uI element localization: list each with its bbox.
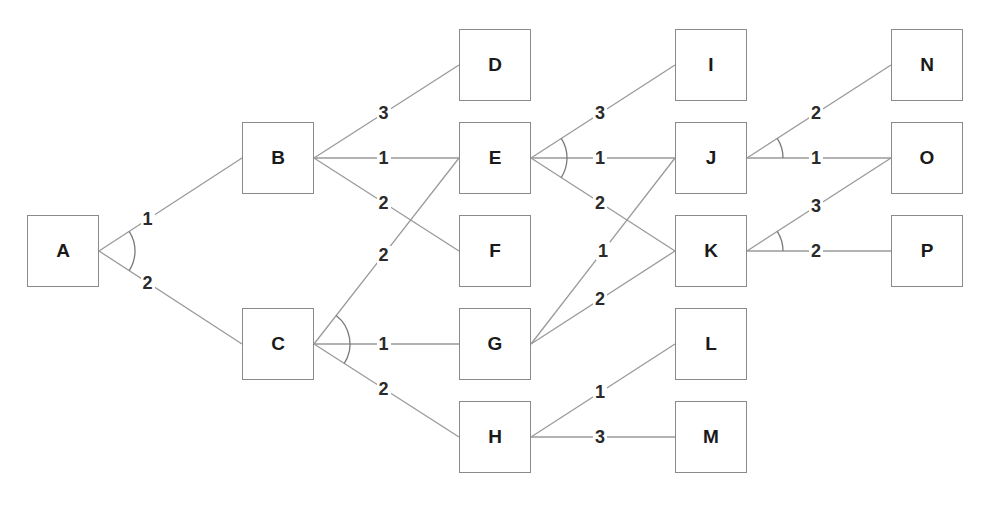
edge-cost-label: 2 [593,290,607,308]
node-i: I [675,29,747,101]
node-d: D [459,29,531,101]
node-l: L [675,308,747,380]
node-a: A [27,215,99,287]
and-arc-j [777,138,783,158]
node-f: F [459,215,531,287]
edge-cost-label: 1 [377,149,391,167]
edge-cost-label: 2 [141,274,155,292]
edge-cost-label: 3 [377,104,391,122]
edge-cost-label: 1 [593,149,607,167]
node-n: N [891,29,963,101]
node-m: M [675,401,747,473]
edge-cost-label: 1 [593,383,607,401]
and-arc-a [129,231,135,270]
node-g: G [459,308,531,380]
node-h: H [459,401,531,473]
and-or-graph: 1231221231212132132 ABCDEFGHIJKLMNOP [0,0,988,507]
edge-cost-label: 1 [596,242,610,260]
and-arc-k [777,231,783,251]
edge-cost-label: 1 [141,210,155,228]
and-arc-c [336,316,350,364]
node-b: B [242,122,314,194]
node-p: P [891,215,963,287]
node-c: C [242,308,314,380]
edge-cost-label: 2 [377,380,391,398]
node-o: O [891,122,963,194]
edge-cost-label: 1 [809,149,823,167]
edge-cost-label: 3 [593,104,607,122]
edge-cost-label: 2 [377,246,391,264]
node-e: E [459,122,531,194]
edge-cost-label: 2 [377,194,391,212]
edge-cost-label: 2 [593,194,607,212]
node-k: K [675,215,747,287]
edge-cost-label: 3 [593,428,607,446]
edge-a-c [99,251,242,344]
edge-cost-label: 3 [809,197,823,215]
edge-cost-label: 2 [809,242,823,260]
edge-cost-label: 2 [809,104,823,122]
edge-cost-label: 1 [377,335,391,353]
edge-a-b [99,158,242,251]
node-j: J [675,122,747,194]
